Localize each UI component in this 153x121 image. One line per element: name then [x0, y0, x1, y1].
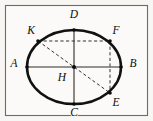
point-label-h: H — [57, 71, 67, 83]
vertex-dot-h — [72, 65, 76, 69]
vertex-dot-b — [119, 65, 123, 69]
vertex-dot-d — [72, 28, 76, 32]
point-label-e: E — [111, 96, 119, 108]
vertex-dot-f — [108, 39, 112, 43]
point-label-d: D — [69, 8, 79, 20]
geometry-figure: ABCDEFHK — [0, 0, 153, 121]
vertex-dot-a — [25, 65, 29, 69]
point-label-f: F — [111, 24, 120, 36]
point-label-c: C — [70, 106, 78, 118]
point-label-b: B — [129, 57, 136, 69]
vertex-dot-k — [36, 39, 40, 43]
point-label-a: A — [9, 57, 18, 69]
vertex-dot-e — [108, 91, 112, 95]
point-label-k: K — [26, 24, 36, 36]
ellipse-diagram-canvas: ABCDEFHK — [0, 0, 153, 121]
